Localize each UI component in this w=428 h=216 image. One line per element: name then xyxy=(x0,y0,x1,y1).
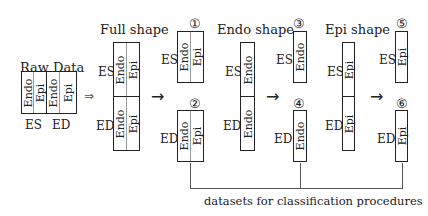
full-shape-es-box: Endo Epi xyxy=(113,42,140,97)
dataset-6-marker: ⑥ xyxy=(396,97,408,110)
dataset-6-epi: Epi xyxy=(396,127,407,146)
full-ed-epi-label: Epi xyxy=(128,114,139,133)
dataset-6-phase: ED xyxy=(377,133,395,145)
dataset-2-endo: Endo xyxy=(179,122,190,151)
dataset-3-endo: Endo xyxy=(295,43,306,72)
dataset-5-box: Epi xyxy=(395,31,408,83)
raw-ed-epi-label: Epi xyxy=(63,83,74,102)
full-ed-label: ED xyxy=(96,120,114,132)
epi-ed-label-cell: Epi xyxy=(343,114,354,133)
full-shape-title: Full shape xyxy=(100,23,169,36)
dataset-1-endo: Endo xyxy=(179,43,190,72)
bracket-right-tick xyxy=(402,163,403,188)
endo-arrow-icon: → xyxy=(266,89,279,105)
dataset-2-box: Endo Epi xyxy=(177,110,204,162)
dataset-1-marker: ① xyxy=(189,17,201,30)
full-shape-ed-box: Endo Epi xyxy=(113,96,140,151)
dataset-1-phase: ES xyxy=(161,54,178,66)
dataset-2-marker: ② xyxy=(189,97,201,110)
endo-ed-label-cell: Endo xyxy=(242,109,253,138)
dataset-3-box: Endo xyxy=(293,31,307,83)
raw-ed-endo-label: Endo xyxy=(48,78,59,107)
endo-shape-title: Endo shape xyxy=(217,23,294,36)
dataset-6-box: Epi xyxy=(395,110,408,162)
epi-shape-ed-box: Epi xyxy=(342,96,355,151)
dataset-3-phase: ES xyxy=(276,54,293,66)
full-ed-endo-label: Endo xyxy=(115,109,126,138)
full-es-endo-label: Endo xyxy=(115,55,126,84)
dataset-3-marker: ③ xyxy=(293,17,305,30)
raw-es-label: ES xyxy=(25,119,42,131)
dataset-2-phase: ED xyxy=(160,133,178,145)
dataset-4-endo: Endo xyxy=(295,122,306,151)
full-es-epi-label: Epi xyxy=(128,60,139,79)
raw-ed-epi-cell: Epi xyxy=(60,72,76,113)
raw-es-epi-label: Epi xyxy=(35,83,46,102)
raw-es-endo-cell: Endo xyxy=(22,72,34,113)
dataset-5-marker: ⑤ xyxy=(396,17,408,30)
raw-ed-label: ED xyxy=(52,119,70,131)
dataset-5-epi: Epi xyxy=(396,48,407,67)
dataset-5-phase: ES xyxy=(379,54,396,66)
raw-es-epi-cell: Epi xyxy=(34,72,47,113)
bracket-mid-tick xyxy=(300,163,301,188)
dataset-2-epi: Epi xyxy=(192,127,203,146)
bracket-baseline xyxy=(190,188,403,189)
implies-arrow-icon: ⇒ xyxy=(84,90,94,102)
epi-shape-title: Epi shape xyxy=(325,23,390,36)
endo-ed-label: ED xyxy=(223,120,241,132)
dataset-4-marker: ④ xyxy=(293,97,305,110)
dataset-1-box: Endo Epi xyxy=(177,31,204,83)
endo-shape-ed-box: Endo xyxy=(240,96,255,151)
epi-ed-label: ED xyxy=(325,120,343,132)
dataset-1-epi: Epi xyxy=(192,48,203,67)
full-arrow-icon: → xyxy=(151,89,164,105)
endo-es-label-cell: Endo xyxy=(242,55,253,84)
endo-shape-es-box: Endo xyxy=(240,42,255,97)
dataset-4-box: Endo xyxy=(293,110,307,162)
epi-shape-es-box: Epi xyxy=(342,42,355,97)
dataset-4-phase: ED xyxy=(274,133,292,145)
raw-es-endo-label: Endo xyxy=(22,78,33,107)
raw-data-box: Endo Epi Endo Epi xyxy=(21,71,77,114)
epi-es-label-cell: Epi xyxy=(343,60,354,79)
raw-ed-endo-cell: Endo xyxy=(47,72,60,113)
epi-arrow-icon: → xyxy=(370,89,383,105)
bracket-left-tick xyxy=(190,163,191,188)
bracket-caption: datasets for classification procedures xyxy=(204,196,423,208)
